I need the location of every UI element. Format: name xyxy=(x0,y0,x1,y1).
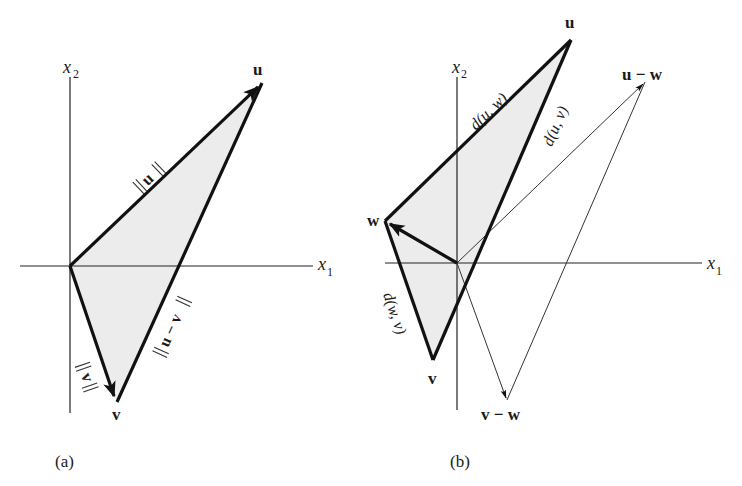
axis-x1-label-b: x 1 xyxy=(706,253,722,278)
svg-text:2: 2 xyxy=(461,67,467,81)
shaded-triangle-b xyxy=(385,40,571,360)
point-u-label-a: u xyxy=(253,60,262,79)
point-w-label-b: w xyxy=(367,211,380,230)
svg-text:1: 1 xyxy=(716,264,722,278)
axis-x1-label-a: x 1 xyxy=(317,254,333,279)
svg-text:1: 1 xyxy=(327,265,333,279)
svg-text:2: 2 xyxy=(73,67,79,81)
figure-canvas: u v x 2 x 1 u v u − xyxy=(0,0,742,486)
svg-text:u − v: u − v xyxy=(155,311,185,349)
panel-a: u v x 2 x 1 u v u − xyxy=(20,57,333,471)
point-v-minus-w-label: v − w xyxy=(481,405,521,424)
panel-b: u w v u − w v − w x 2 x 1 d(u, w) d(u, v… xyxy=(367,13,722,471)
caption-b: (b) xyxy=(450,452,470,471)
vector-v-minus-w-arrow xyxy=(457,263,506,398)
caption-a: (a) xyxy=(55,452,74,471)
axis-x2-label-b: x 2 xyxy=(451,57,467,81)
point-v-label-a: v xyxy=(112,405,121,424)
svg-text:x: x xyxy=(62,57,71,77)
svg-text:x: x xyxy=(451,57,460,77)
point-v-label-b: v xyxy=(428,369,437,388)
d-w-v-label: d(w, v) xyxy=(379,290,410,337)
norm-v-label-a: v xyxy=(74,362,100,393)
point-u-label-b: u xyxy=(565,13,574,32)
svg-text:x: x xyxy=(706,253,715,273)
svg-text:v: v xyxy=(77,370,98,385)
d-u-v-label: d(u, v) xyxy=(539,103,572,148)
point-u-minus-w-label: u − w xyxy=(622,65,663,84)
svg-text:x: x xyxy=(317,254,326,274)
